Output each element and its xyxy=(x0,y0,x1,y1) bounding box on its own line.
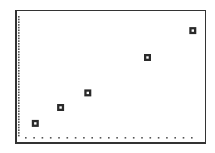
y-axis-dot xyxy=(18,70,20,72)
y-axis-dot xyxy=(18,65,20,67)
y-axis-dot xyxy=(18,48,20,50)
x-axis-dot xyxy=(100,137,102,139)
scatter-plot xyxy=(0,0,215,153)
x-axis-dot xyxy=(50,137,52,139)
y-axis-dot xyxy=(18,73,20,75)
x-axis-dot xyxy=(158,137,160,139)
y-axis-dot xyxy=(18,32,20,34)
y-axis-dot xyxy=(18,129,20,131)
data-point-hole xyxy=(59,106,61,108)
y-axis-dot xyxy=(18,24,20,26)
y-axis-dot xyxy=(18,46,20,48)
x-axis-dot xyxy=(150,137,152,139)
y-axis-dot xyxy=(18,127,20,129)
data-point-hole xyxy=(192,29,194,31)
x-axis-dot xyxy=(191,137,193,139)
x-axis-dot xyxy=(116,137,118,139)
y-axis-dot xyxy=(18,59,20,61)
y-axis-dot xyxy=(18,81,20,83)
y-axis-dot xyxy=(18,75,20,77)
y-axis-dot xyxy=(18,27,20,29)
y-axis-dot xyxy=(18,43,20,45)
y-axis-dot xyxy=(18,113,20,115)
y-axis-dot xyxy=(18,94,20,96)
y-axis-dot xyxy=(18,121,20,123)
x-axis-dot xyxy=(91,137,93,139)
y-axis-dot xyxy=(18,51,20,53)
x-axis-dot xyxy=(42,137,44,139)
y-axis-dot xyxy=(18,78,20,80)
y-axis-dot xyxy=(18,100,20,102)
data-point-hole xyxy=(87,92,89,94)
y-axis-dot xyxy=(18,111,20,113)
y-axis-dot xyxy=(18,35,20,37)
y-axis-dot xyxy=(18,92,20,94)
y-axis-dot xyxy=(18,116,20,118)
x-axis-dot xyxy=(166,137,168,139)
y-axis xyxy=(18,16,20,136)
x-axis-dot xyxy=(174,137,176,139)
y-axis-dot xyxy=(18,86,20,88)
x-axis-dot xyxy=(141,137,143,139)
x-axis-dot xyxy=(25,137,27,139)
y-axis-dot xyxy=(18,30,20,32)
y-axis-dot xyxy=(18,38,20,40)
x-axis-dot xyxy=(67,137,69,139)
y-axis-dot xyxy=(18,102,20,104)
y-axis-dot xyxy=(18,124,20,126)
data-point-hole xyxy=(34,122,36,124)
y-axis-dot xyxy=(18,97,20,99)
x-axis-dot xyxy=(133,137,135,139)
y-axis-dot xyxy=(18,135,20,137)
x-axis-dot xyxy=(83,137,85,139)
x-axis-dot xyxy=(183,137,185,139)
y-axis-dot xyxy=(18,57,20,59)
y-axis-dot xyxy=(18,89,20,91)
x-axis-dot xyxy=(58,137,60,139)
y-axis-dot xyxy=(18,84,20,86)
y-axis-dot xyxy=(18,21,20,23)
data-point-hole xyxy=(146,56,148,58)
y-axis-dot xyxy=(18,40,20,42)
y-axis-dot xyxy=(18,132,20,134)
y-axis-dot xyxy=(18,119,20,121)
data-points xyxy=(32,27,197,127)
x-axis xyxy=(25,137,193,139)
y-axis-dot xyxy=(18,19,20,21)
x-axis-dot xyxy=(75,137,77,139)
y-axis-dot xyxy=(18,108,20,110)
y-axis-dot xyxy=(18,16,20,18)
x-axis-dot xyxy=(125,137,127,139)
y-axis-dot xyxy=(18,105,20,107)
x-axis-dot xyxy=(108,137,110,139)
x-axis-dot xyxy=(33,137,35,139)
y-axis-dot xyxy=(18,62,20,64)
y-axis-dot xyxy=(18,67,20,69)
y-axis-dot xyxy=(18,54,20,56)
